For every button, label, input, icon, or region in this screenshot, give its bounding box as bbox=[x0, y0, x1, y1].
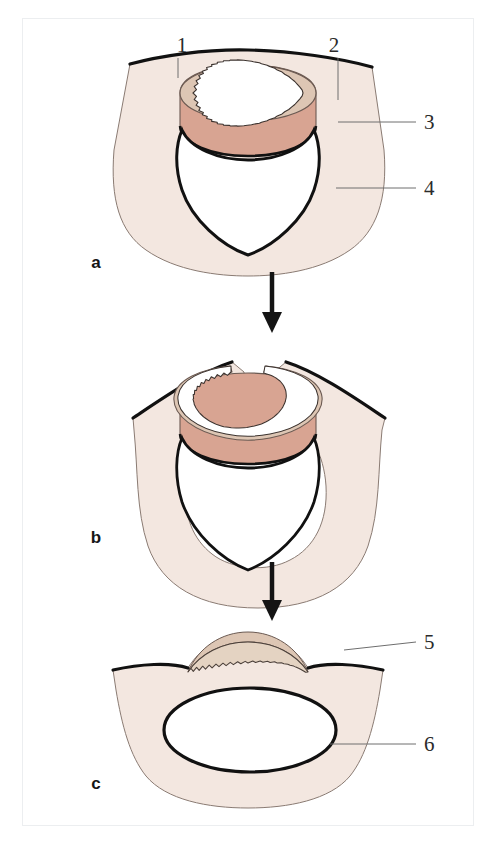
callout-label-2: 2 bbox=[329, 33, 340, 57]
arrow-a-to-b bbox=[262, 272, 282, 333]
panel-letter-c: c bbox=[91, 774, 100, 793]
panel-b: b bbox=[91, 362, 385, 608]
panel-c-opening bbox=[164, 688, 336, 772]
panel-a: a bbox=[91, 50, 384, 276]
callout-label-1: 1 bbox=[177, 33, 188, 57]
panel-c: c bbox=[91, 632, 383, 808]
callout-label-6: 6 bbox=[424, 732, 435, 756]
callout-label-5: 5 bbox=[424, 630, 435, 654]
panel-letter-b: b bbox=[91, 528, 101, 547]
figure-canvas: a 1 2 3 4 bbox=[0, 0, 495, 843]
callout-label-4: 4 bbox=[424, 176, 435, 200]
panel-letter-a: a bbox=[91, 253, 101, 272]
leader-5 bbox=[344, 642, 416, 650]
figure-root: a 1 2 3 4 bbox=[0, 0, 495, 843]
callout-label-3: 3 bbox=[424, 110, 435, 134]
